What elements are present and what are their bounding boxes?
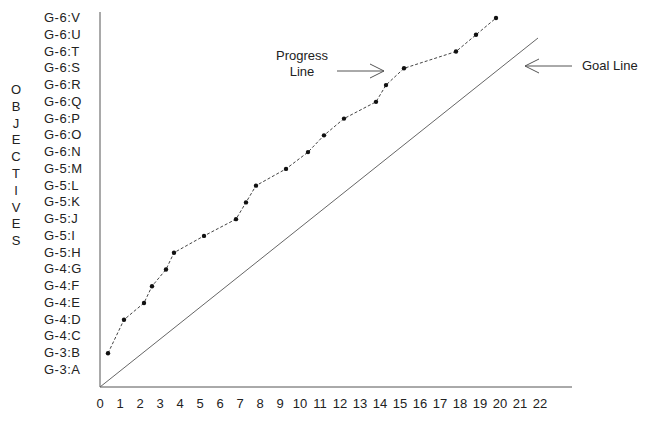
x-tick-label: 0	[96, 397, 103, 411]
x-tick-label: 3	[156, 397, 163, 411]
goal-line	[100, 38, 538, 387]
y-title-letter: I	[9, 183, 23, 200]
y-title-letter: E	[9, 132, 23, 149]
y-tick-label: G-6:V	[44, 11, 80, 25]
y-tick-label: G-6:Q	[44, 95, 82, 109]
y-title-letter: T	[9, 166, 23, 183]
y-tick-label: G-5:L	[44, 179, 79, 193]
data-point-marker	[374, 100, 378, 104]
y-tick-label: G-6:P	[44, 112, 80, 126]
progress-chart: G-3:AG-3:BG-4:CG-4:DG-4:EG-4:FG-4:GG-5:H…	[0, 0, 656, 423]
y-title-letter: V	[9, 200, 23, 217]
x-tick-label: 14	[373, 397, 387, 411]
y-tick-label: G-4:C	[44, 329, 81, 343]
x-tick-label: 9	[276, 397, 283, 411]
goal-line-annotation: Goal Line	[582, 58, 638, 74]
data-point-marker	[322, 133, 326, 137]
x-tick-label: 1	[116, 397, 123, 411]
data-point-marker	[164, 267, 168, 271]
y-title-letter: E	[9, 216, 23, 233]
x-tick-label: 17	[433, 397, 447, 411]
x-tick-label: 12	[333, 397, 347, 411]
y-axis-title: OBJECTIVES	[9, 82, 23, 250]
y-title-letter: B	[9, 99, 23, 116]
data-point-marker	[254, 183, 258, 187]
data-point-marker	[474, 33, 478, 37]
x-tick-label: 13	[353, 397, 367, 411]
y-title-letter: C	[9, 149, 23, 166]
y-tick-label: G-5:M	[44, 162, 83, 176]
x-tick-label: 20	[493, 397, 507, 411]
x-tick-label: 16	[413, 397, 427, 411]
progress-arrow-icon	[337, 64, 384, 78]
data-point-marker	[454, 49, 458, 53]
data-point-marker	[142, 301, 146, 305]
y-tick-label: G-5:H	[44, 246, 81, 260]
x-tick-label: 7	[236, 397, 243, 411]
data-point-marker	[306, 150, 310, 154]
data-point-marker	[122, 318, 126, 322]
y-tick-label: G-5:I	[44, 229, 75, 243]
data-point-marker	[402, 66, 406, 70]
x-tick-label: 4	[176, 397, 183, 411]
y-tick-label: G-4:E	[44, 296, 80, 310]
x-tick-label: 15	[393, 397, 407, 411]
x-tick-label: 18	[453, 397, 467, 411]
y-title-letter: J	[9, 116, 23, 133]
x-tick-label: 10	[293, 397, 307, 411]
data-point-marker	[172, 250, 176, 254]
x-tick-label: 19	[473, 397, 487, 411]
y-tick-label: G-3:A	[44, 363, 80, 377]
y-tick-label: G-6:T	[44, 45, 80, 59]
goal-arrow-icon	[525, 59, 572, 73]
x-tick-label: 5	[196, 397, 203, 411]
y-tick-label: G-5:J	[44, 212, 78, 226]
progress-annotation-line2: Line	[272, 64, 332, 80]
x-tick-label: 6	[216, 397, 223, 411]
data-point-marker	[234, 217, 238, 221]
y-tick-label: G-6:S	[44, 61, 80, 75]
y-title-letter: O	[9, 82, 23, 99]
y-title-letter: S	[9, 233, 23, 250]
x-tick-label: 2	[136, 397, 143, 411]
y-tick-label: G-6:U	[44, 28, 81, 42]
y-tick-label: G-4:G	[44, 262, 82, 276]
data-point-marker	[202, 234, 206, 238]
x-tick-label: 8	[256, 397, 263, 411]
y-tick-label: G-6:R	[44, 78, 81, 92]
progress-line-annotation: Progress Line	[272, 48, 332, 80]
data-point-marker	[284, 167, 288, 171]
x-tick-label: 11	[313, 397, 327, 411]
y-tick-label: G-4:D	[44, 313, 81, 327]
y-tick-label: G-6:N	[44, 145, 81, 159]
y-tick-label: G-5:K	[44, 195, 80, 209]
y-tick-label: G-3:B	[44, 346, 80, 360]
progress-annotation-line1: Progress	[272, 48, 332, 64]
data-point-marker	[244, 200, 248, 204]
data-point-marker	[106, 351, 110, 355]
y-tick-label: G-4:F	[44, 279, 80, 293]
data-point-marker	[150, 284, 154, 288]
data-point-marker	[342, 116, 346, 120]
x-tick-label: 21	[513, 397, 527, 411]
x-tick-label: 22	[533, 397, 547, 411]
data-point-marker	[384, 83, 388, 87]
y-tick-label: G-6:O	[44, 128, 82, 142]
data-point-marker	[494, 16, 498, 20]
